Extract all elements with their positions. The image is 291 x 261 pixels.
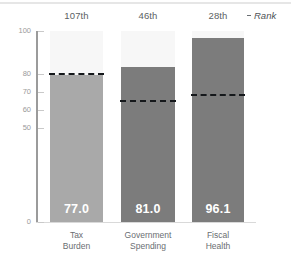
y-tick-mark: [38, 31, 44, 32]
bar-fill: 96.1: [192, 38, 244, 222]
y-tick-label: 60: [23, 105, 31, 115]
category-line-1: Government: [125, 230, 172, 240]
bar-value-label: 81.0: [121, 202, 175, 216]
bar-fill: 77.0: [50, 75, 103, 222]
bar-chart: 107th 46th 28th Rank 100 80 70 60 50: [0, 0, 291, 261]
category-line-1: Fiscal: [207, 230, 229, 240]
y-tick-80: 80: [0, 69, 44, 79]
bar-government-spending[interactable]: 81.0: [121, 31, 175, 222]
plot-area: 100 80 70 60 50 0 77.0: [0, 0, 291, 261]
y-tick-70: 70: [0, 87, 44, 97]
y-tick-mark: [38, 128, 44, 129]
bar-value-label: 77.0: [50, 202, 103, 216]
reference-line: [120, 100, 176, 102]
y-tick-0: 0: [0, 217, 44, 227]
bar-tax-burden[interactable]: 77.0: [50, 31, 103, 222]
y-tick-label: 70: [23, 87, 31, 97]
category-line-1: Tax: [70, 230, 83, 240]
y-tick-label: 80: [23, 69, 31, 79]
y-tick-label: 100: [18, 26, 31, 36]
reference-line: [49, 73, 104, 75]
reference-line: [191, 94, 245, 96]
y-tick-60: 60: [0, 105, 44, 115]
y-tick-100: 100: [0, 26, 44, 36]
y-tick-50: 50: [0, 123, 44, 133]
category-label-fiscal-health: Fiscal Health: [192, 230, 244, 251]
y-tick-mark: [38, 110, 44, 111]
category-label-government-spending: Government Spending: [111, 230, 185, 251]
y-tick-mark: [38, 92, 44, 93]
bar-value-label: 96.1: [192, 202, 244, 216]
category-label-tax-burden: Tax Burden: [50, 230, 103, 251]
category-line-2: Burden: [63, 241, 90, 251]
category-line-2: Health: [206, 241, 231, 251]
y-tick-label: 50: [23, 123, 31, 133]
bar-fiscal-health[interactable]: 96.1: [192, 31, 244, 222]
x-axis-line: [36, 222, 256, 223]
category-line-2: Spending: [130, 241, 166, 251]
bar-fill: 81.0: [121, 67, 175, 222]
y-tick-mark: [38, 222, 44, 223]
y-tick-mark: [38, 74, 44, 75]
y-tick-label: 0: [27, 217, 31, 227]
